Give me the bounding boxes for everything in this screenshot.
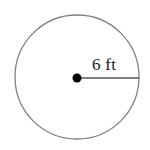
circle-radius-diagram: 6 ft [0,0,150,150]
diagram-canvas [0,0,150,150]
radius-measurement-label: 6 ft [92,55,116,75]
center-point-dot [73,74,82,83]
